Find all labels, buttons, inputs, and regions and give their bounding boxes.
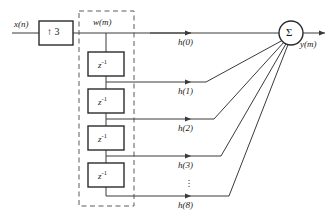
tap-label-h2: h(2) [178,124,193,133]
summation-node: Σ [286,27,292,38]
diagram-canvas: x(n) ↑ 3 w(m) z-1 z-1 z-1 z-1 h(0) h(1) … [0,0,330,224]
adder-branch-h1 [206,40,283,82]
output-signal-label: y(m) [300,40,317,49]
delay-block-exp-1: -1 [102,58,107,65]
upsampler-block[interactable]: ↑ 3 [47,27,60,37]
tap-label-h8: h(8) [178,201,193,210]
delay-block-exp-4: -1 [102,169,107,176]
input-signal-label: x(n) [14,20,29,29]
delay-block-label-2: z-1 [98,96,107,107]
delay-block-exp-2: -1 [102,95,107,102]
tap-label-h1: h(1) [178,87,193,96]
delay-block-label-3: z-1 [98,133,107,144]
delay-block-label-4: z-1 [98,170,107,181]
adder-branch-h3 [221,42,287,156]
delay-block-label-1: z-1 [98,59,107,70]
intermediate-signal-label: w(m) [93,18,112,27]
delay-block-exp-3: -1 [102,132,107,139]
tap-label-h0: h(0) [178,38,193,47]
tap-label-h3: h(3) [178,161,193,170]
vertical-ellipsis: . . . [184,176,194,185]
